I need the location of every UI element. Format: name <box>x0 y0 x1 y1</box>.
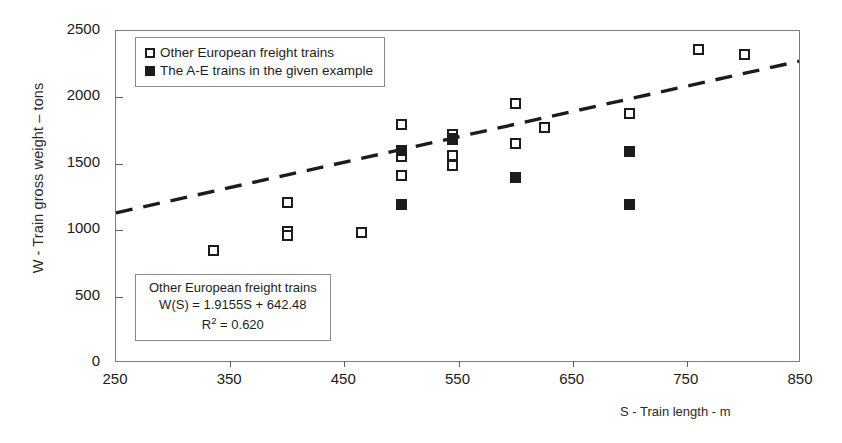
regression-annotation-box: Other European freight trains W(S) = 1.9… <box>135 274 331 341</box>
data-point-open <box>282 230 293 241</box>
data-point-open <box>510 138 521 149</box>
legend-label: The A-E trains in the given example <box>160 62 373 79</box>
x-tick-label-350: 350 <box>194 370 264 387</box>
x-tick-label-250: 250 <box>80 370 150 387</box>
data-point-open <box>282 197 293 208</box>
data-point-open <box>539 122 550 133</box>
data-point-open <box>208 245 219 256</box>
legend-item-ae-trains: The A-E trains in the given example <box>145 62 373 79</box>
x-tick-label-550: 550 <box>423 370 493 387</box>
x-axis-title: S - Train length - m <box>620 404 731 419</box>
x-tick-label-750: 750 <box>651 370 721 387</box>
x-tickmark-550 <box>459 361 460 367</box>
chart-legend: Other European freight trains The A-E tr… <box>135 37 385 87</box>
y-tick-label-2500: 2500 <box>40 20 100 37</box>
x-tick-label-450: 450 <box>308 370 378 387</box>
y-tick-label-1500: 1500 <box>40 153 100 170</box>
legend-label: Other European freight trains <box>160 44 334 61</box>
chart-figure: W - Train gross weight – tons S - Train … <box>0 0 842 443</box>
annotation-title: Other European freight trains <box>149 280 317 297</box>
data-point-filled <box>396 145 407 156</box>
data-point-filled <box>624 199 635 210</box>
data-point-filled <box>396 199 407 210</box>
annotation-r-squared: R2 = 0.620 <box>149 313 317 334</box>
data-point-filled <box>447 133 458 144</box>
x-tickmark-650 <box>573 361 574 367</box>
open-square-icon <box>145 48 155 58</box>
data-point-open <box>510 98 521 109</box>
y-tick-label-500: 500 <box>40 286 100 303</box>
data-point-open <box>693 44 704 55</box>
x-tickmark-450 <box>344 361 345 367</box>
data-point-filled <box>624 146 635 157</box>
legend-item-other-european: Other European freight trains <box>145 44 373 61</box>
data-point-open <box>356 227 367 238</box>
y-tick-label-2000: 2000 <box>40 86 100 103</box>
data-point-open <box>624 108 635 119</box>
r-symbol: R <box>202 317 211 332</box>
annotation-equation: W(S) = 1.9155S + 642.48 <box>149 297 317 314</box>
data-point-open <box>396 119 407 130</box>
y-tick-label-0: 0 <box>40 352 100 369</box>
x-tickmark-750 <box>687 361 688 367</box>
x-tick-label-850: 850 <box>765 370 835 387</box>
data-point-open <box>447 160 458 171</box>
data-point-open <box>739 49 750 60</box>
x-tick-label-650: 650 <box>537 370 607 387</box>
r-value: = 0.620 <box>216 317 263 332</box>
data-point-filled <box>510 172 521 183</box>
x-tickmark-350 <box>230 361 231 367</box>
y-tick-label-1000: 1000 <box>40 219 100 236</box>
data-point-open <box>396 170 407 181</box>
filled-square-icon <box>145 66 155 76</box>
plot-area: Other European freight trains The A-E tr… <box>115 30 800 362</box>
